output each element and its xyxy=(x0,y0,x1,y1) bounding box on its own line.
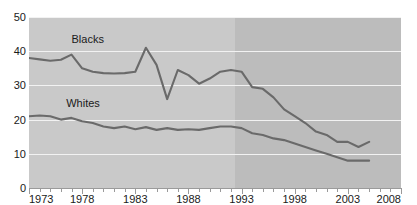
x-axis-tick-minor xyxy=(380,188,381,192)
x-axis-tick-major xyxy=(401,188,402,194)
x-axis-label: 1988 xyxy=(176,194,200,205)
x-axis-tick-minor xyxy=(50,188,51,192)
x-axis-tick-minor xyxy=(390,188,391,192)
x-axis-label: 1998 xyxy=(282,194,306,205)
y-axis-label: 30 xyxy=(2,80,26,91)
x-axis-tick-minor xyxy=(125,188,126,192)
series-label-blacks: Blacks xyxy=(72,34,104,45)
line-whites xyxy=(29,116,369,161)
y-axis-label: 20 xyxy=(2,115,26,126)
y-axis-label: 0 xyxy=(2,183,26,194)
x-axis-tick-minor xyxy=(72,188,73,192)
x-axis-tick-minor xyxy=(178,188,179,192)
x-axis-tick-minor xyxy=(103,188,104,192)
x-axis-tick-minor xyxy=(369,188,370,192)
x-axis-tick-minor xyxy=(157,188,158,192)
y-axis-label: 50 xyxy=(2,12,26,23)
x-axis-tick-minor xyxy=(61,188,62,192)
x-axis-tick-minor xyxy=(93,188,94,192)
x-axis-tick-minor xyxy=(337,188,338,192)
plot-area: Blacks Whites xyxy=(29,17,401,188)
x-axis-tick-minor xyxy=(40,188,41,192)
x-axis-label: 1983 xyxy=(123,194,147,205)
x-axis-tick-minor xyxy=(305,188,306,192)
x-axis-line xyxy=(29,188,401,189)
x-axis-tick-minor xyxy=(263,188,264,192)
x-axis-label: 2008 xyxy=(377,194,401,205)
x-axis-tick-minor xyxy=(284,188,285,192)
x-axis-tick-minor xyxy=(167,188,168,192)
series-label-whites: Whites xyxy=(66,98,100,109)
x-axis-tick-minor xyxy=(199,188,200,192)
x-axis-label: 1978 xyxy=(70,194,94,205)
x-axis-tick-minor xyxy=(252,188,253,192)
x-axis-tick-minor xyxy=(210,188,211,192)
y-axis-label: 10 xyxy=(2,149,26,160)
x-axis-label: 1973 xyxy=(29,194,53,205)
x-axis-tick-minor xyxy=(146,188,147,192)
y-axis: 01020304050 xyxy=(0,0,26,205)
y-axis-label: 40 xyxy=(2,46,26,57)
x-axis-tick-minor xyxy=(316,188,317,192)
x-axis-tick-minor xyxy=(114,188,115,192)
x-axis-tick-minor xyxy=(220,188,221,192)
x-axis-tick-minor xyxy=(358,188,359,192)
chart-root: 01020304050 Blacks Whites 19731978198319… xyxy=(0,0,417,205)
x-axis-label: 1993 xyxy=(229,194,253,205)
x-axis-tick-minor xyxy=(273,188,274,192)
cutoff-text-strip xyxy=(0,0,417,9)
x-axis-label: 2003 xyxy=(336,194,360,205)
x-axis-tick-minor xyxy=(327,188,328,192)
x-axis-tick-minor xyxy=(231,188,232,192)
